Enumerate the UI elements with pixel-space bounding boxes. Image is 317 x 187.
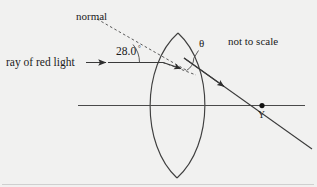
- angle-theta-leader: [194, 51, 199, 59]
- normal-label: normal: [76, 10, 107, 22]
- refracted-ray-arrow: [163, 63, 181, 69]
- theta-label: θ: [199, 37, 204, 49]
- not-to-scale-label: not to scale: [228, 35, 278, 47]
- point-y-marker: [259, 103, 264, 108]
- point-y-label: Y: [258, 110, 265, 120]
- incident-ray-label: ray of red light: [6, 56, 75, 69]
- degree-symbol: °: [138, 44, 141, 52]
- emergent-ray-arrow: [184, 58, 224, 87]
- optics-diagram: ray of red light normal 28.0 ° θ not to …: [0, 0, 317, 187]
- angle-of-incidence-label: 28.0: [116, 45, 136, 57]
